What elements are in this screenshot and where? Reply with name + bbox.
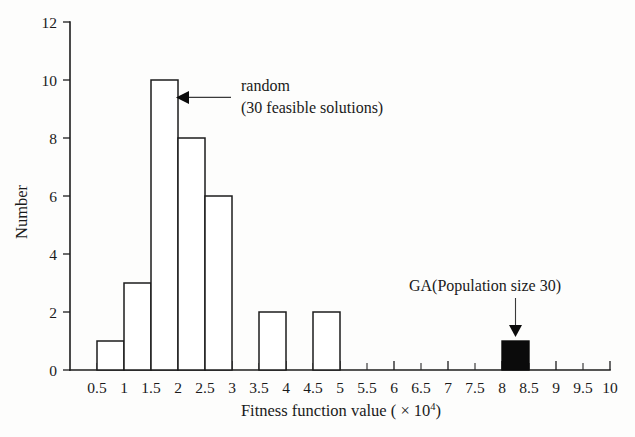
x-axis-title-main: Fitness function value ( × 10 — [241, 401, 430, 420]
bars-ga-series — [502, 341, 529, 370]
y-tick-label: 10 — [42, 72, 58, 89]
annotation-ga-line1: GA(Population size 30) — [409, 277, 561, 295]
y-tick-label: 2 — [49, 304, 57, 321]
x-tick-label: 1.5 — [141, 379, 161, 396]
bar-random — [259, 312, 286, 370]
y-tick-label: 4 — [49, 246, 57, 263]
y-tick-label: 6 — [49, 188, 57, 205]
y-axis-title: Number — [12, 184, 31, 239]
x-tick-label: 7.5 — [465, 379, 485, 396]
y-axis-tick-labels: 024681012 — [42, 14, 58, 379]
x-axis-title: Fitness function value ( × 104) — [241, 401, 441, 420]
y-tick-label: 8 — [49, 130, 57, 147]
x-tick-label: 2 — [174, 379, 182, 396]
bar-random — [205, 196, 232, 370]
annotation-random: random (30 feasible solutions) — [176, 77, 383, 117]
bar-random — [151, 80, 178, 370]
x-tick-label: 9.5 — [573, 379, 593, 396]
bar-random — [313, 312, 340, 370]
annotation-random-line1: random — [241, 77, 290, 94]
y-tick-label: 12 — [42, 14, 58, 31]
x-tick-label: 8.5 — [519, 379, 539, 396]
x-tick-label: 9 — [552, 379, 560, 396]
annotation-random-line2: (30 feasible solutions) — [241, 99, 383, 117]
x-tick-label: 3.5 — [249, 379, 269, 396]
bar-random — [124, 283, 151, 370]
x-axis-title-close: ) — [436, 401, 442, 420]
x-tick-label: 10 — [602, 379, 618, 396]
x-tick-label: 6.5 — [411, 379, 431, 396]
x-tick-label: 8 — [498, 379, 506, 396]
x-tick-label: 5 — [336, 379, 344, 396]
bars-random-series — [97, 80, 340, 370]
x-tick-label: 1 — [120, 379, 128, 396]
x-tick-label: 0.5 — [87, 379, 107, 396]
y-axis-ticks — [63, 22, 70, 370]
x-tick-label: 5.5 — [357, 379, 377, 396]
x-tick-label: 4 — [282, 379, 290, 396]
bar-random — [178, 138, 205, 370]
x-tick-label: 3 — [228, 379, 236, 396]
annotation-ga: GA(Population size 30) — [409, 277, 561, 337]
x-tick-label: 6 — [390, 379, 398, 396]
x-axis-tick-labels: 0.511.522.533.544.555.566.577.588.599.51… — [87, 379, 618, 396]
chart-canvas: 024681012 0.511.522.533.544.555.566.577.… — [0, 0, 635, 437]
bar-ga — [502, 341, 529, 370]
bar-random — [97, 341, 124, 370]
histogram-figure: 024681012 0.511.522.533.544.555.566.577.… — [0, 0, 635, 437]
x-tick-label: 7 — [444, 379, 452, 396]
y-tick-label: 0 — [49, 362, 57, 379]
annotation-ga-arrowhead — [509, 325, 522, 337]
x-tick-label: 4.5 — [303, 379, 323, 396]
x-tick-label: 2.5 — [195, 379, 215, 396]
